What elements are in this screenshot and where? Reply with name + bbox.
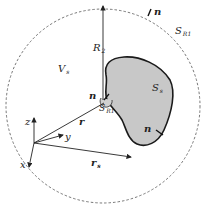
label-rs: rs [91,158,101,169]
label-S-outer-main: S [175,25,182,36]
label-S-small: SR1 [99,104,115,114]
label-S-outer: SR1 [175,26,191,37]
label-z: z [25,117,30,127]
normal-top-arrow [148,9,151,16]
rs-vector [34,143,131,157]
label-S-small-sub: R1 [106,107,114,114]
label-x: x [20,160,26,170]
label-Vs: Vs [58,64,69,75]
label-V-sub: s [66,68,69,75]
label-r: r [79,117,84,127]
label-n-right: n [144,124,151,134]
diagram-canvas: R2 Vs SR1 Ss SR1 n n n r rs z y x [0,0,206,206]
label-rs-main: r [91,157,96,168]
label-R-main: R [93,42,101,53]
label-S-small-main: S [99,103,105,113]
label-y: y [65,132,71,142]
label-n-top: n [154,7,161,17]
label-rs-sub: s [97,162,100,169]
label-R2: R2 [93,43,105,54]
label-R-sub: 2 [102,47,106,54]
x-axis [29,143,34,167]
label-Ss-main: S [152,82,159,93]
scatterer-body [106,57,173,145]
y-axis [34,135,63,143]
label-V-main: V [58,63,65,74]
label-Ss-sub: s [160,87,163,94]
label-Ss: Ss [152,83,163,94]
label-n-left: n [89,91,96,101]
label-S-outer-sub: R1 [183,30,191,37]
